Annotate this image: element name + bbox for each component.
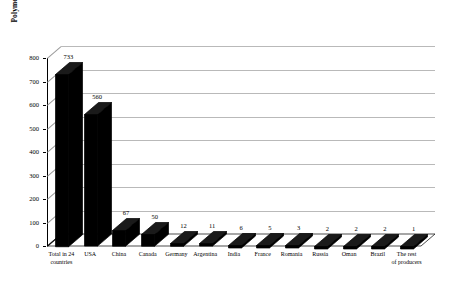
- bar: [84, 102, 113, 248]
- bar: [170, 231, 199, 248]
- bar-value-label: 1: [398, 225, 429, 232]
- bar-value-label: 67: [110, 209, 141, 216]
- plot-area: 0100200300400500600700800733Total in 24 …: [0, 0, 456, 285]
- bar: [314, 234, 343, 251]
- bar-value-label: 11: [197, 222, 228, 229]
- y-tick-mark: [43, 176, 46, 177]
- bar-value-label: 6: [226, 224, 257, 231]
- gridline: [61, 70, 435, 71]
- y-tick-mark: [43, 58, 46, 59]
- bar: [343, 234, 372, 251]
- bar: [285, 233, 314, 250]
- y-tick-label: 100: [17, 219, 39, 226]
- gridline: [61, 140, 435, 141]
- y-tick-label: 300: [17, 172, 39, 179]
- y-tick-label: 700: [17, 78, 39, 85]
- bar: [400, 234, 429, 251]
- bar-value-label: 50: [139, 213, 170, 220]
- y-tick-mark: [43, 223, 46, 224]
- bar-value-label: 3: [283, 224, 314, 231]
- y-tick-label: 800: [17, 54, 39, 61]
- y-tick-mark: [43, 152, 46, 153]
- y-tick-label: 200: [17, 195, 39, 202]
- bar-value-label: 12: [168, 222, 199, 229]
- bar: [256, 233, 285, 250]
- y-tick-mark: [43, 105, 46, 106]
- y-tick-mark: [43, 82, 46, 83]
- x-axis-category-label: The rest of producers: [387, 251, 427, 266]
- bar: [371, 234, 400, 251]
- y-tick-label: 0: [17, 242, 39, 249]
- y-tick-mark: [43, 246, 46, 247]
- bar: [112, 218, 141, 248]
- bar: [199, 231, 228, 248]
- y-tick-mark: [43, 199, 46, 200]
- bar: [141, 222, 170, 248]
- bar-value-label: 560: [82, 93, 113, 100]
- polymer-flooding-projects-chart: Polymer flooding projects 01002003004005…: [0, 0, 456, 285]
- bar: [228, 233, 257, 250]
- gridline: [61, 93, 435, 94]
- bar-value-label: 2: [369, 225, 400, 232]
- bar: [55, 62, 84, 248]
- gridline: [61, 117, 435, 118]
- gridline: [61, 187, 435, 188]
- bar-value-label: 5: [254, 224, 285, 231]
- bar-value-label: 733: [53, 53, 84, 60]
- y-tick-label: 500: [17, 125, 39, 132]
- y-tick-label: 400: [17, 148, 39, 155]
- y-tick-mark: [43, 129, 46, 130]
- gridline: [61, 46, 435, 47]
- y-tick-label: 600: [17, 101, 39, 108]
- gridline: [61, 164, 435, 165]
- bar-value-label: 2: [312, 225, 343, 232]
- bar-value-label: 2: [341, 225, 372, 232]
